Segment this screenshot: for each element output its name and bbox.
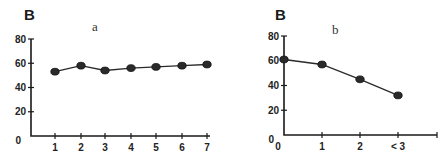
x-tick-label: 2: [357, 141, 363, 152]
axes: [31, 39, 210, 136]
y-tick-label: 60: [268, 55, 280, 66]
panel-letter: B: [24, 6, 35, 23]
y-tick-label: 40: [268, 80, 280, 91]
y-tick-label: 60: [15, 58, 27, 69]
data-point-marker: [101, 67, 109, 74]
x-tick-label: < 3: [391, 141, 406, 152]
data-point-marker: [203, 61, 211, 68]
data-point-marker: [356, 76, 364, 83]
chart-panel-b: Bb806040200012< 3: [268, 6, 437, 152]
x-tick-label: 6: [179, 142, 185, 153]
x-tick-label: 2: [78, 142, 84, 153]
data-point-marker: [178, 62, 186, 69]
y-tick-label: 0: [15, 135, 21, 146]
chart-panel-a: Ba8060402001234567: [15, 6, 211, 153]
data-point-marker: [318, 61, 326, 68]
chart-figure: Ba8060402001234567 Bb806040200012< 3: [0, 0, 442, 158]
x-tick-label: 4: [128, 142, 134, 153]
y-tick-label: 20: [15, 106, 27, 117]
data-point-marker: [280, 56, 288, 63]
data-point-marker: [152, 64, 160, 71]
data-line: [284, 60, 398, 96]
y-tick-label: 0: [268, 134, 274, 145]
chart-title: a: [92, 19, 98, 34]
chart-title: b: [332, 22, 339, 37]
axes: [284, 36, 437, 135]
y-tick-label: 80: [15, 34, 27, 45]
x-tick-label: 0: [275, 141, 281, 152]
x-tick-label: 1: [319, 141, 325, 152]
data-point-marker: [51, 68, 59, 75]
y-tick-label: 20: [268, 105, 280, 116]
data-point-marker: [127, 65, 135, 72]
x-tick-label: 5: [153, 142, 159, 153]
x-tick-label: 3: [102, 142, 108, 153]
y-tick-label: 80: [268, 31, 280, 42]
data-point-marker: [77, 62, 85, 69]
panel-letter: B: [275, 6, 286, 23]
x-tick-label: 1: [52, 142, 58, 153]
data-point-marker: [394, 92, 402, 99]
x-tick-label: 7: [204, 142, 210, 153]
y-tick-label: 40: [15, 82, 27, 93]
